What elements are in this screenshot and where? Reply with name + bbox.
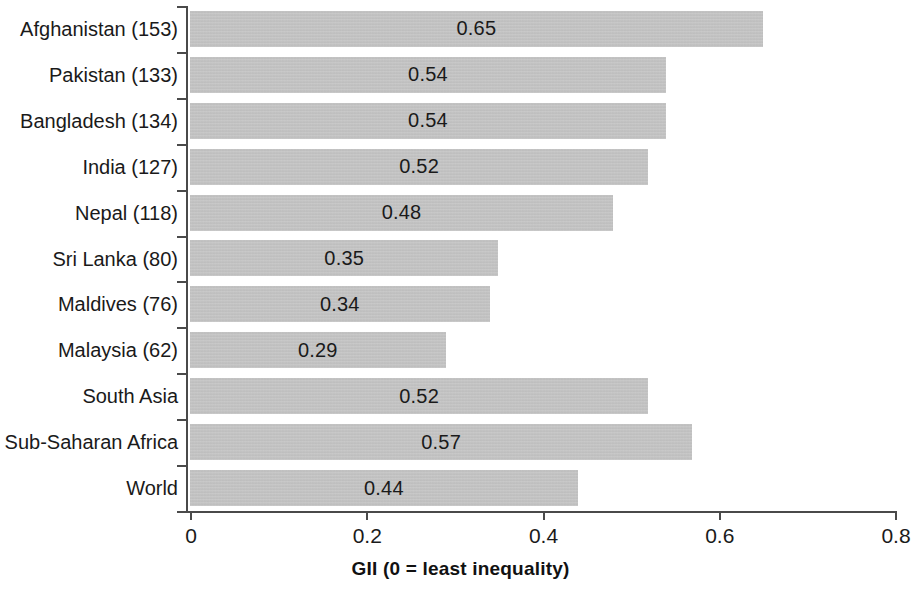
bar: 0.65 — [190, 11, 763, 47]
y-axis-tick — [177, 373, 187, 375]
bar-value-label: 0.52 — [399, 155, 439, 178]
bar-value-label: 0.29 — [298, 339, 338, 362]
y-axis-tick — [177, 98, 187, 100]
bar-row: 0.29 — [190, 327, 446, 373]
category-label: Pakistan (133) — [0, 64, 178, 86]
x-axis-tick-label: 0.2 — [353, 524, 382, 548]
x-axis-tick-label: 0.4 — [529, 524, 558, 548]
category-label: Sri Lanka (80) — [0, 248, 178, 270]
x-axis-tick — [895, 511, 897, 520]
category-label: Malaysia (62) — [0, 339, 178, 361]
y-axis-tick — [177, 465, 187, 467]
bar: 0.52 — [190, 149, 648, 185]
category-label: Bangladesh (134) — [0, 110, 178, 132]
bar-value-label: 0.52 — [399, 385, 439, 408]
category-label: Maldives (76) — [0, 293, 178, 315]
category-label: South Asia — [0, 385, 178, 407]
category-label: Nepal (118) — [0, 202, 178, 224]
x-axis-tick-label: 0.6 — [705, 524, 734, 548]
y-axis-tick — [177, 6, 187, 8]
bar: 0.35 — [190, 240, 498, 276]
bar-row: 0.54 — [190, 52, 666, 98]
x-axis-tick — [543, 511, 545, 520]
category-axis-labels: Afghanistan (153)Pakistan (133)Banglades… — [0, 6, 178, 511]
bar-value-label: 0.54 — [408, 109, 448, 132]
x-axis-line — [186, 511, 897, 513]
x-axis-tick — [190, 511, 192, 520]
bar-row: 0.48 — [190, 190, 613, 236]
bar-row: 0.57 — [190, 419, 692, 465]
bar-value-label: 0.54 — [408, 63, 448, 86]
bar-row: 0.52 — [190, 373, 648, 419]
bar-row: 0.44 — [190, 465, 578, 511]
bar-row: 0.54 — [190, 98, 666, 144]
bar: 0.54 — [190, 103, 666, 139]
bar-value-label: 0.34 — [320, 293, 360, 316]
x-axis-title: GII (0 = least inequality) — [0, 558, 921, 580]
plot-area: 0.650.540.540.520.480.350.340.290.520.57… — [186, 6, 895, 511]
gii-bar-chart: Afghanistan (153)Pakistan (133)Banglades… — [0, 0, 921, 592]
bar: 0.44 — [190, 470, 578, 506]
x-axis-tick — [719, 511, 721, 520]
bar-row: 0.35 — [190, 236, 498, 282]
x-axis-tick — [366, 511, 368, 520]
bar-value-label: 0.48 — [382, 201, 422, 224]
category-label: Sub-Saharan Africa — [0, 431, 178, 453]
bar: 0.48 — [190, 195, 613, 231]
y-axis-tick — [177, 190, 187, 192]
y-axis-tick — [177, 281, 187, 283]
bar: 0.52 — [190, 378, 648, 414]
bar-row: 0.65 — [190, 6, 763, 52]
bar-value-label: 0.57 — [421, 431, 461, 454]
bar: 0.54 — [190, 57, 666, 93]
category-label: India (127) — [0, 156, 178, 178]
bar-value-label: 0.44 — [364, 477, 404, 500]
category-label: Afghanistan (153) — [0, 18, 178, 40]
bar-value-label: 0.35 — [324, 247, 364, 270]
bar: 0.57 — [190, 424, 692, 460]
bar-row: 0.52 — [190, 144, 648, 190]
y-axis-tick — [177, 52, 187, 54]
y-axis-tick — [177, 419, 187, 421]
bar-row: 0.34 — [190, 281, 490, 327]
bar-value-label: 0.65 — [457, 17, 497, 40]
y-axis-tick — [177, 327, 187, 329]
category-label: World — [0, 477, 178, 499]
y-axis-tick — [177, 144, 187, 146]
bar: 0.29 — [190, 332, 446, 368]
bar-series: 0.650.540.540.520.480.350.340.290.520.57… — [186, 6, 895, 511]
x-axis-tick-label: 0.8 — [881, 524, 910, 548]
y-axis-tick — [177, 236, 187, 238]
bar: 0.34 — [190, 286, 490, 322]
x-axis-tick-label: 0 — [185, 524, 197, 548]
